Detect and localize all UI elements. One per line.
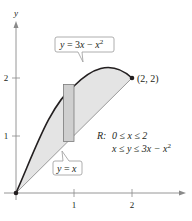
lower-label-x: x xyxy=(71,163,77,174)
region-name: R: xyxy=(96,130,106,141)
upper-label-minus: − xyxy=(85,39,96,50)
svg-text:x ≤ y ≤ 3x − x2: x ≤ y ≤ 3x − x2 xyxy=(111,142,171,154)
x-axis-arrow-icon xyxy=(179,191,186,196)
lower-label-eq: = xyxy=(61,163,72,174)
x-tick-label-1: 1 xyxy=(72,200,77,210)
y-axis-label: y xyxy=(13,8,18,18)
origin-point xyxy=(14,191,19,196)
svg-text:y = x: y = x xyxy=(56,163,77,174)
point-2-2 xyxy=(130,76,135,81)
upper-label-exp: 2 xyxy=(100,38,104,46)
region-line-2: x ≤ y ≤ 3x − x xyxy=(111,143,168,154)
region-line-1: 0 ≤ x ≤ 2 xyxy=(112,130,147,141)
callout-lower-line: y = x xyxy=(53,151,82,175)
y-axis-arrow-icon xyxy=(14,21,19,28)
region-description: R: 0 ≤ x ≤ 2 x ≤ y ≤ 3x − x2 xyxy=(96,130,171,154)
x-tick-label-2: 2 xyxy=(130,200,135,210)
region-diagram: 1 2 1 2 y (2, 2) y = 3x − x2 y = x R: 0 … xyxy=(0,0,192,221)
region-line-2-exp: 2 xyxy=(167,142,171,150)
svg-text:y = 3x − x2: y = 3x − x2 xyxy=(59,38,104,50)
y-tick-label-1: 1 xyxy=(4,131,9,141)
point-2-2-label: (2, 2) xyxy=(137,73,159,85)
representative-rectangle xyxy=(64,85,75,142)
svg-text:R: 0 ≤ x ≤ 2: R: 0 ≤ x ≤ 2 xyxy=(96,130,147,141)
upper-label-eq: = 3 xyxy=(64,39,80,50)
y-tick-label-2: 2 xyxy=(4,73,9,83)
callout-upper-curve: y = 3x − x2 xyxy=(55,37,114,62)
